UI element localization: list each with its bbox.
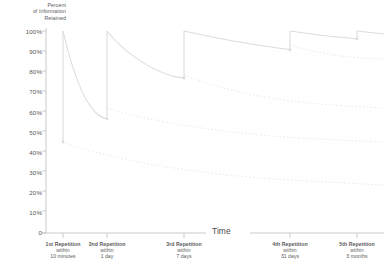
repetition-markers — [62, 38, 359, 144]
marker-repetition-1 — [62, 141, 65, 144]
y-tick-marks — [42, 31, 46, 233]
retention-segment-2 — [107, 31, 184, 78]
retention-segment-4 — [290, 31, 357, 39]
marker-repetition-5 — [356, 38, 359, 41]
x-tick-label-4: 4th Repetition within 31 days — [253, 241, 327, 260]
decay-curve-after-3rd — [184, 75, 384, 108]
retention-segment-1 — [63, 31, 107, 119]
retention-segment-5 — [357, 31, 384, 34]
decay-curve-after-4th — [290, 45, 384, 59]
marker-repetition-3 — [183, 77, 186, 80]
retention-curve — [63, 31, 384, 142]
x-tick-label-3: 3rd Repetition within 7 days — [147, 241, 221, 260]
x-tick-3-interval: 7 days — [147, 253, 221, 259]
x-tick-label-5: 5th Repetition within 3 months — [320, 241, 384, 260]
retention-segment-3 — [184, 31, 290, 50]
x-tick-5-interval: 3 months — [320, 253, 384, 259]
x-axis-title: Time — [212, 226, 231, 236]
decay-curve-after-1st — [63, 142, 384, 185]
dotted-decay-curves — [63, 45, 384, 185]
decay-curve-after-2nd — [107, 108, 384, 142]
chart-plot-area — [0, 0, 384, 277]
x-tick-2-interval: 1 day — [70, 253, 144, 259]
chart-container: Percent of Information Retained 100% 90%… — [0, 0, 384, 277]
x-tick-label-2: 2nd Repetition within 1 day — [70, 241, 144, 260]
x-tick-4-interval: 31 days — [253, 253, 327, 259]
marker-repetition-2 — [106, 118, 109, 121]
marker-repetition-4 — [289, 49, 292, 52]
